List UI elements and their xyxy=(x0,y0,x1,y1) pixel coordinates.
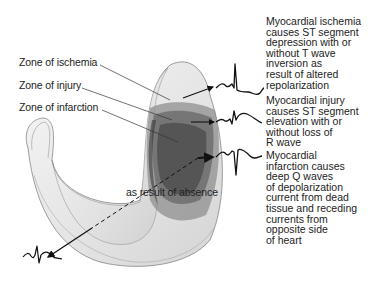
description-ischemia: Myocardial ischemia causes ST segment de… xyxy=(266,16,361,90)
ecg-st-elevation xyxy=(216,111,262,124)
ecg-deep-q-wave xyxy=(216,149,262,175)
description-line: tissue and receding xyxy=(266,203,357,214)
description-injury: Myocardial injury causes ST segment elev… xyxy=(266,95,359,148)
description-infarction: Myocardial infarction causes deep Q wave… xyxy=(266,150,357,245)
zones xyxy=(147,102,219,220)
description-line: Myocardial injury xyxy=(266,95,359,106)
description-line: Myocardial xyxy=(266,150,357,161)
label-zone-ischemia: Zone of ischemia xyxy=(19,56,97,68)
label-zone-infarction: Zone of infarction xyxy=(19,101,98,113)
label-inner-annotation: as result of absence xyxy=(126,186,218,198)
ecg-st-depression xyxy=(216,64,264,95)
label-zone-injury: Zone of injury xyxy=(19,79,81,91)
description-line: R wave xyxy=(266,137,359,148)
description-line: result of altered xyxy=(266,69,361,80)
description-line: of heart xyxy=(266,235,357,246)
description-line: repolarization xyxy=(266,80,361,91)
infarction-arrow xyxy=(198,157,213,158)
ecg-reciprocal xyxy=(23,246,62,263)
description-line: Myocardial ischemia xyxy=(266,16,361,27)
